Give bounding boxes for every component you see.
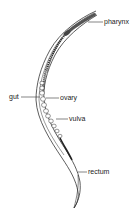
label-gut: gut (9, 93, 19, 101)
pharynx-structure (63, 13, 96, 37)
label-ovary: ovary (60, 94, 77, 102)
eggs (40, 81, 63, 138)
nematode-diagram (0, 0, 139, 215)
label-vulva: vulva (69, 115, 85, 123)
posterior-gut (60, 138, 72, 160)
label-rectum: rectum (88, 168, 109, 176)
label-pharynx: pharynx (104, 18, 129, 26)
